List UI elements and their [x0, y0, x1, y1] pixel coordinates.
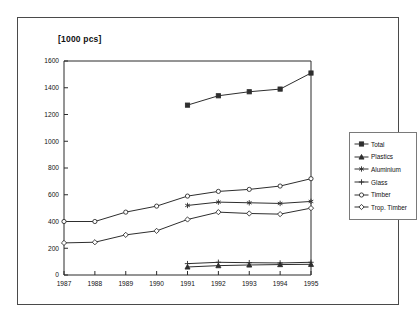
- legend-item-timber[interactable]: Timber: [353, 188, 414, 201]
- series-glass: [185, 260, 314, 267]
- chart-frame: [1000 pcs] 02004006008001000120014001600…: [17, 17, 399, 305]
- asterisk-icon: [353, 164, 370, 174]
- plus-icon: [353, 177, 370, 187]
- chart-plot-area: 0200400600800100012001400160019871988198…: [18, 18, 400, 306]
- x-tick-label: 1987: [57, 280, 72, 287]
- legend-item-label: Trop. Timber: [370, 204, 407, 211]
- y-tick-label: 600: [48, 191, 59, 198]
- x-tick-label: 1990: [149, 280, 164, 287]
- x-tick-label: 1991: [180, 280, 195, 287]
- legend-item-label: Timber: [370, 191, 391, 198]
- series-total: [185, 71, 313, 107]
- chart-axes: [64, 61, 311, 275]
- legend-item-label: Plastics: [370, 153, 393, 160]
- legend-item-label: Total: [370, 141, 385, 148]
- open-circle-icon: [353, 190, 370, 200]
- filled-square-icon: [353, 139, 370, 149]
- legend-item-glass[interactable]: Glass: [353, 176, 414, 189]
- legend-item-total[interactable]: Total: [353, 138, 414, 151]
- open-diamond-icon: [353, 202, 370, 212]
- filled-triangle-icon: [353, 152, 370, 162]
- legend-item-label: Glass: [370, 179, 387, 186]
- legend-item-plastics[interactable]: Plastics: [353, 151, 414, 164]
- y-tick-label: 400: [48, 218, 59, 225]
- y-tick-label: 800: [48, 164, 59, 171]
- x-tick-label: 1993: [242, 280, 257, 287]
- y-tick-label: 1400: [44, 84, 59, 91]
- series-aluminium: [185, 199, 313, 208]
- x-tick-label: 1989: [118, 280, 133, 287]
- legend-item-label: Aluminium: [370, 166, 401, 173]
- chart-legend: TotalPlasticsAluminiumGlassTimberTrop. T…: [349, 132, 417, 220]
- x-tick-label: 1995: [304, 280, 319, 287]
- y-tick-label: 0: [55, 271, 59, 278]
- x-tick-label: 1988: [88, 280, 103, 287]
- y-tick-label: 1000: [44, 138, 59, 145]
- x-tick-label: 1994: [273, 280, 288, 287]
- y-tick-label: 200: [48, 245, 59, 252]
- y-tick-label: 1200: [44, 111, 59, 118]
- x-tick-label: 1992: [211, 280, 226, 287]
- series-trop-timber: [61, 206, 313, 246]
- y-tick-label: 1600: [44, 57, 59, 64]
- legend-item-trop-timber[interactable]: Trop. Timber: [353, 201, 414, 214]
- legend-item-aluminium[interactable]: Aluminium: [353, 163, 414, 176]
